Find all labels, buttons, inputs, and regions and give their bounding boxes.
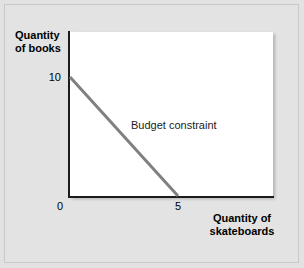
x-axis-tick-label-0: 0	[53, 200, 67, 212]
budget-constraint-annotation: Budget constraint	[131, 119, 217, 132]
y-axis-title: Quantity of books	[15, 29, 61, 54]
y-axis-tick-label-10: 10	[37, 71, 61, 83]
x-axis-tick-label-5: 5	[171, 200, 185, 212]
x-axis-line	[68, 196, 274, 198]
y-axis-line	[68, 31, 70, 198]
x-axis-title: Quantity of skateboards	[196, 212, 288, 237]
plot-area	[70, 32, 273, 197]
budget-constraint-figure: Quantity of books Quantity of skateboard…	[0, 0, 304, 268]
